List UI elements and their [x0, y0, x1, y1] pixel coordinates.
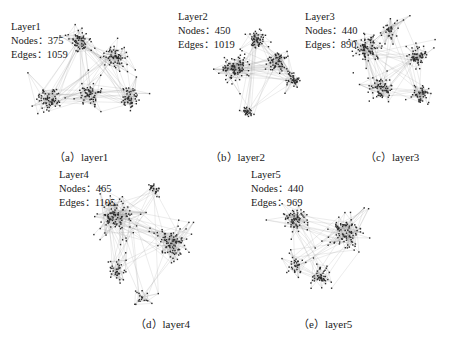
edge-count: Edges：1019: [178, 38, 235, 52]
node-count: Nodes：440: [305, 24, 358, 38]
layer-name: Layer5: [251, 168, 304, 182]
caption-layer4: （d）layer4: [135, 315, 190, 331]
node-count: Nodes：450: [178, 24, 235, 38]
panel-layer1: Layer1 Nodes：375 Edges：1059: [0, 0, 160, 150]
panel-layer4: Layer4 Nodes：465 Edges：1105: [55, 168, 240, 313]
caption-layer5: （e）layer5: [298, 315, 352, 331]
caption-layer3: （c）layer3: [365, 148, 419, 164]
panel-layer3: Layer3 Nodes：440 Edges：890: [305, 0, 472, 150]
panel-layer5: Layer5 Nodes：440 Edges：969: [240, 168, 415, 313]
layer-info: Layer1 Nodes：375 Edges：1059: [11, 20, 68, 62]
edge-count: Edges：890: [305, 38, 358, 52]
edge-count: Edges：1059: [11, 48, 68, 62]
layer-name: Layer3: [305, 10, 358, 24]
layer-name: Layer2: [178, 10, 235, 24]
edge-count: Edges：969: [251, 196, 304, 210]
panel-layer2: Layer2 Nodes：450 Edges：1019: [160, 0, 310, 150]
layer-info: Layer3 Nodes：440 Edges：890: [305, 10, 358, 52]
layer-name: Layer4: [59, 168, 115, 182]
node-count: Nodes：375: [11, 34, 68, 48]
layer-info: Layer5 Nodes：440 Edges：969: [251, 168, 304, 210]
node-count: Nodes：440: [251, 182, 304, 196]
caption-layer2: （b）layer2: [210, 148, 265, 164]
layer-info: Layer2 Nodes：450 Edges：1019: [178, 10, 235, 52]
edge-count: Edges：1105: [59, 196, 115, 210]
caption-layer1: （a）layer1: [54, 148, 108, 164]
layer-info: Layer4 Nodes：465 Edges：1105: [59, 168, 115, 210]
node-count: Nodes：465: [59, 182, 115, 196]
layer-name: Layer1: [11, 20, 68, 34]
